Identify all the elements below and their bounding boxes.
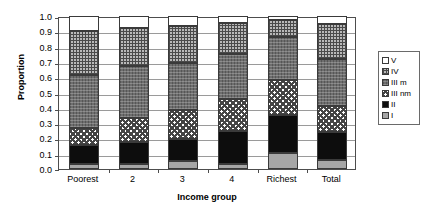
x-tick-label: Richest: [266, 174, 296, 185]
x-tickmark: [208, 169, 209, 173]
y-tick-label: 0.7: [39, 58, 52, 67]
legend: VIVIII mIII nmIII: [378, 51, 420, 125]
legend-label: I: [391, 112, 393, 120]
legend-label: V: [391, 57, 396, 65]
bar-segment-i[interactable]: [268, 153, 298, 169]
y-tick-label: 0.1: [39, 150, 52, 159]
stacked-bar-chart: Proportion 0.00.10.20.30.40.50.60.70.80.…: [0, 0, 423, 216]
bar-segment-iv[interactable]: [168, 26, 198, 63]
legend-swatch-icon: [382, 79, 389, 86]
x-axis-title: Income group: [58, 192, 356, 202]
y-tick-label: 0.8: [39, 43, 52, 52]
bar-segment-ii[interactable]: [317, 132, 347, 160]
bar-segment-i[interactable]: [168, 161, 198, 169]
x-tickmark: [258, 169, 259, 173]
bar-segment-iv[interactable]: [119, 28, 149, 65]
y-tick-label: 0.3: [39, 120, 52, 129]
bar-total[interactable]: [317, 16, 347, 169]
x-tickmark: [307, 169, 308, 173]
bar-segment-iii-m[interactable]: [168, 63, 198, 110]
bar-segment-iii-nm[interactable]: [268, 80, 298, 116]
bar-segment-iii-m[interactable]: [119, 66, 149, 118]
y-axis-tick-labels: 0.00.10.20.30.40.50.60.70.80.91.0: [12, 12, 56, 176]
bar-segment-iii-nm[interactable]: [218, 99, 248, 131]
legend-label: III m: [391, 79, 407, 87]
y-tick-label: 0.6: [39, 74, 52, 83]
bar-2[interactable]: [119, 16, 149, 169]
legend-item-v[interactable]: V: [382, 55, 417, 66]
x-tick-label: Poorest: [67, 174, 98, 185]
bars-layer: [59, 18, 355, 169]
bar-segment-iii-m[interactable]: [69, 75, 99, 128]
bar-segment-iv[interactable]: [317, 24, 347, 58]
y-tickmark: [55, 170, 59, 171]
legend-swatch-icon: [382, 68, 389, 75]
legend-item-ii[interactable]: II: [382, 99, 417, 110]
bar-segment-iv[interactable]: [69, 31, 99, 75]
bar-segment-v[interactable]: [268, 16, 298, 20]
legend-label: III nm: [391, 90, 411, 98]
bar-richest[interactable]: [268, 16, 298, 169]
bar-segment-i[interactable]: [317, 160, 347, 169]
bar-poorest[interactable]: [69, 16, 99, 169]
y-tick-label: 0.5: [39, 89, 52, 98]
bar-3[interactable]: [168, 16, 198, 169]
x-axis-tick-labels: Poorest234RichestTotal: [58, 174, 356, 188]
bar-segment-i[interactable]: [218, 164, 248, 169]
legend-swatch-icon: [382, 57, 389, 64]
bar-segment-iv[interactable]: [218, 23, 248, 54]
bar-segment-iii-m[interactable]: [317, 59, 347, 106]
y-tick-label: 1.0: [39, 13, 52, 22]
x-tickmark: [109, 169, 110, 173]
bar-segment-ii[interactable]: [268, 115, 298, 152]
bar-segment-v[interactable]: [69, 16, 99, 31]
x-tick-label: 2: [130, 174, 135, 185]
bar-segment-iii-m[interactable]: [218, 54, 248, 98]
legend-item-iv[interactable]: IV: [382, 66, 417, 77]
y-tick-label: 0.4: [39, 104, 52, 113]
legend-label: II: [391, 101, 395, 109]
legend-swatch-icon: [382, 90, 389, 97]
legend-label: IV: [391, 68, 399, 76]
legend-item-iii-m[interactable]: III m: [382, 77, 417, 88]
x-tick-label: Total: [322, 174, 341, 185]
x-tickmark: [158, 169, 159, 173]
bar-4[interactable]: [218, 16, 248, 169]
y-tick-label: 0.9: [39, 28, 52, 37]
legend-item-iii-nm[interactable]: III nm: [382, 88, 417, 99]
legend-swatch-icon: [382, 112, 389, 119]
bar-segment-iii-nm[interactable]: [69, 128, 99, 145]
x-tick-label: 3: [180, 174, 185, 185]
bar-segment-iii-m[interactable]: [268, 37, 298, 80]
bar-segment-iv[interactable]: [268, 20, 298, 37]
bar-segment-iii-nm[interactable]: [168, 110, 198, 139]
bar-segment-ii[interactable]: [69, 145, 99, 165]
bar-segment-i[interactable]: [69, 164, 99, 169]
x-tick-label: 4: [229, 174, 234, 185]
bar-segment-v[interactable]: [168, 16, 198, 26]
y-tick-label: 0.2: [39, 135, 52, 144]
bar-segment-v[interactable]: [218, 16, 248, 23]
y-tick-label: 0.0: [39, 166, 52, 175]
bar-segment-iii-nm[interactable]: [317, 106, 347, 131]
bar-segment-iii-nm[interactable]: [119, 118, 149, 142]
bar-segment-ii[interactable]: [218, 131, 248, 164]
bar-segment-v[interactable]: [317, 16, 347, 24]
bar-segment-ii[interactable]: [119, 142, 149, 163]
bar-segment-i[interactable]: [119, 164, 149, 169]
bar-segment-v[interactable]: [119, 16, 149, 28]
bar-segment-ii[interactable]: [168, 139, 198, 161]
legend-item-i[interactable]: I: [382, 110, 417, 121]
plot-area: [58, 17, 356, 170]
legend-swatch-icon: [382, 101, 389, 108]
